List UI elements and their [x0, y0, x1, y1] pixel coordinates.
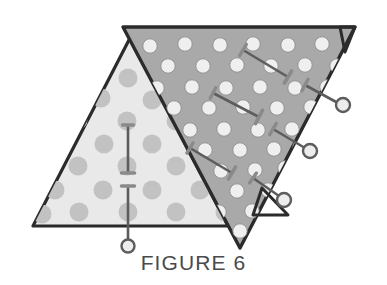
perforation-dot — [213, 38, 227, 52]
perforation-dot — [70, 203, 89, 222]
perforation-dot — [183, 123, 197, 137]
perforation-dot — [95, 135, 114, 154]
perforation-dot — [251, 123, 265, 137]
perforation-dot — [143, 181, 162, 200]
perforation-dot — [143, 135, 162, 154]
perforation-dot — [217, 122, 231, 136]
perforation-dot — [167, 101, 181, 115]
perforation-dot — [178, 37, 192, 51]
perforation-dot — [311, 119, 325, 133]
figure-caption: FIGURE 6 — [0, 250, 387, 276]
perforation-dot — [288, 81, 302, 95]
perforation-dot — [330, 59, 344, 73]
perforation-dot — [219, 81, 233, 95]
perforation-dot — [233, 143, 247, 157]
perforation-dot — [94, 181, 113, 200]
perforation-dot — [230, 184, 244, 198]
perforation-dot — [315, 37, 329, 51]
perforation-dot — [202, 101, 216, 115]
pin-eyelet — [303, 144, 317, 158]
figure-illustration — [0, 0, 387, 285]
figure-container: FIGURE 6 — [0, 0, 387, 285]
perforation-dot — [69, 111, 88, 130]
perforation-dot — [267, 142, 281, 156]
pin-eyelet — [277, 193, 291, 207]
perforation-dot — [161, 59, 175, 73]
perforation-dot — [253, 80, 267, 94]
perforation-dot — [196, 59, 210, 73]
perforation-dot — [143, 39, 157, 53]
perforation-dot — [233, 224, 247, 238]
perforation-dot — [230, 58, 244, 72]
perforation-dot — [47, 134, 66, 153]
perforation-dot — [167, 157, 186, 176]
perforation-dot — [298, 58, 312, 72]
perforation-dot — [167, 203, 186, 222]
perforation-dot — [285, 122, 299, 136]
perforation-dot — [270, 101, 284, 115]
perforation-dot — [281, 38, 295, 52]
pin-eyelet — [336, 98, 350, 112]
perforation-dot — [185, 80, 199, 94]
perforation-dot — [119, 69, 138, 88]
perforation-dot — [69, 157, 88, 176]
